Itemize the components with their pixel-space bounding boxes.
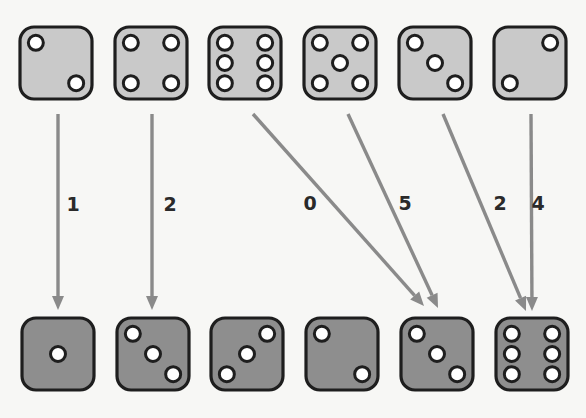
pip (240, 347, 255, 362)
arrow-label: 5 (398, 192, 411, 214)
arrow-head (52, 296, 64, 310)
pip (504, 367, 519, 382)
bottom-die-2 (117, 318, 189, 390)
arrow-label: 2 (493, 192, 506, 214)
arrow-label: 0 (303, 192, 316, 214)
pip (258, 76, 273, 91)
arrow-5 (443, 114, 526, 311)
pip (258, 35, 273, 50)
pip (28, 35, 43, 50)
pip (217, 76, 232, 91)
arrow-label: 1 (66, 193, 79, 215)
arrow-4 (348, 114, 438, 308)
pip (428, 56, 443, 71)
pip (125, 326, 140, 341)
pip (146, 347, 161, 362)
pip (353, 35, 368, 50)
pip (314, 326, 329, 341)
pip (123, 76, 138, 91)
pip (164, 35, 179, 50)
pip (504, 347, 519, 362)
pip (407, 35, 422, 50)
pip (545, 347, 560, 362)
pip (409, 326, 424, 341)
pip (355, 367, 370, 382)
top-die-3 (209, 27, 281, 99)
arrow-label: 4 (531, 192, 544, 214)
pip (312, 35, 327, 50)
pip (333, 56, 348, 71)
bottom-die-6 (496, 318, 568, 390)
bottom-die-1 (22, 318, 94, 390)
arrow-shaft (443, 114, 521, 298)
pip (51, 347, 66, 362)
pip (430, 347, 445, 362)
pip (448, 76, 463, 91)
arrow-1 (52, 114, 64, 310)
top-die-4 (304, 27, 376, 99)
pip (353, 76, 368, 91)
pip (312, 76, 327, 91)
pip (166, 367, 181, 382)
pip (450, 367, 465, 382)
pip (258, 56, 273, 71)
arrow-head (146, 296, 158, 310)
pip (217, 56, 232, 71)
arrow-head (526, 297, 538, 311)
arrow-2 (146, 114, 158, 310)
pip (123, 35, 138, 50)
pip (219, 367, 234, 382)
bottom-die-4 (306, 318, 378, 390)
pip (164, 76, 179, 91)
top-die-2 (115, 27, 187, 99)
top-die-6 (494, 27, 566, 99)
pip (260, 326, 275, 341)
arrow-label: 2 (163, 193, 176, 215)
dice-mapping-diagram: 120524 (0, 0, 586, 418)
bottom-die-3 (211, 318, 283, 390)
pip (545, 367, 560, 382)
pip (217, 35, 232, 50)
pip (543, 35, 558, 50)
top-die-1 (20, 27, 92, 99)
top-die-5 (399, 27, 471, 99)
bottom-die-5 (401, 318, 473, 390)
pip (504, 326, 519, 341)
pip (69, 76, 84, 91)
pip (502, 76, 517, 91)
pip (545, 326, 560, 341)
